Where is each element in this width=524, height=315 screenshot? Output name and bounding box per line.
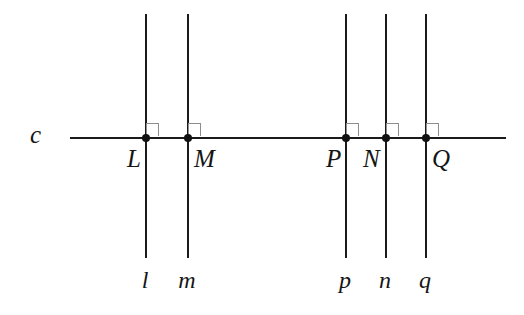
intersection-dot-Q: [422, 134, 430, 142]
geometry-diagram: c LMPNQ lmpnq: [0, 0, 524, 315]
transversal-line-c: [70, 137, 506, 139]
label-line-q: q: [419, 268, 431, 292]
label-line-l: l: [142, 268, 149, 292]
label-point-P: P: [326, 146, 341, 171]
intersection-dot-L: [142, 134, 150, 142]
label-line-m: m: [178, 268, 195, 292]
label-line-p: p: [339, 268, 351, 292]
label-point-M: M: [194, 146, 215, 171]
label-line-n: n: [379, 268, 391, 292]
intersection-dot-N: [382, 134, 390, 142]
label-point-L: L: [127, 146, 141, 171]
label-point-Q: Q: [432, 146, 450, 171]
intersection-dot-P: [342, 134, 350, 142]
intersection-dot-M: [184, 134, 192, 142]
label-point-N: N: [363, 146, 380, 171]
label-line-c: c: [30, 122, 41, 147]
